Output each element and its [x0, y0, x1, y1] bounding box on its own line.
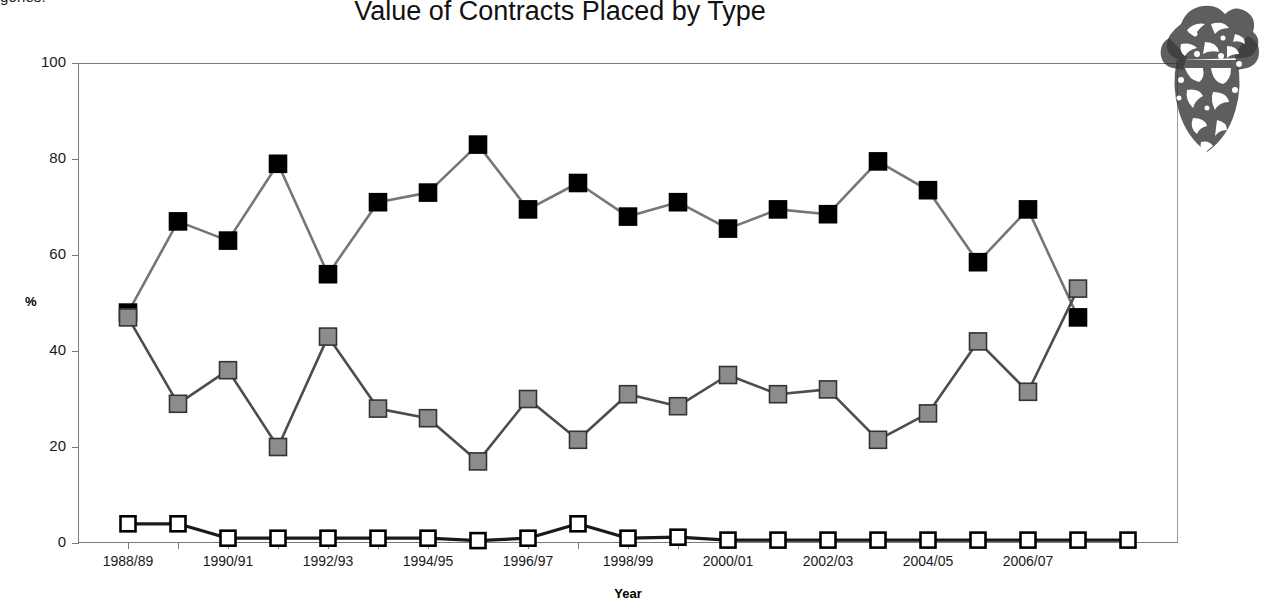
data-point-marker — [770, 201, 787, 218]
data-point-marker — [1121, 533, 1136, 548]
coat-of-arms-icon — [1151, 0, 1263, 166]
data-point-marker — [1020, 383, 1037, 400]
x-tick-label: 1992/93 — [303, 553, 354, 569]
data-point-marker — [970, 254, 987, 271]
data-point-marker — [771, 533, 786, 548]
data-point-marker — [421, 531, 436, 546]
x-axis-title: Year — [0, 586, 1256, 601]
data-point-marker — [370, 400, 387, 417]
data-point-marker — [920, 182, 937, 199]
data-point-marker — [220, 362, 237, 379]
y-tick-label: 0 — [22, 533, 66, 550]
data-point-marker — [671, 530, 686, 545]
data-point-marker — [970, 333, 987, 350]
data-point-marker — [620, 386, 637, 403]
data-point-marker — [320, 328, 337, 345]
data-point-marker — [121, 516, 136, 531]
data-point-marker — [120, 309, 137, 326]
data-point-marker — [420, 410, 437, 427]
series-line — [128, 289, 1078, 462]
data-point-marker — [820, 381, 837, 398]
data-point-marker — [921, 533, 936, 548]
data-point-marker — [420, 184, 437, 201]
data-point-marker — [271, 531, 286, 546]
data-point-marker — [471, 533, 486, 548]
data-point-marker — [520, 201, 537, 218]
open-white-square-series — [121, 516, 1136, 548]
data-point-marker — [321, 531, 336, 546]
data-point-marker — [1070, 309, 1087, 326]
x-tick-label: 2004/05 — [903, 553, 954, 569]
data-point-marker — [221, 531, 236, 546]
data-point-marker — [470, 136, 487, 153]
chart-plot — [78, 63, 1178, 543]
data-point-marker — [670, 398, 687, 415]
data-point-marker — [920, 405, 937, 422]
data-point-marker — [670, 194, 687, 211]
data-point-marker — [720, 367, 737, 384]
data-point-marker — [170, 213, 187, 230]
y-tick-label: 60 — [22, 245, 66, 262]
data-point-marker — [971, 533, 986, 548]
data-point-marker — [871, 533, 886, 548]
data-point-marker — [1070, 280, 1087, 297]
grey-filled-square-series — [120, 280, 1087, 470]
data-point-marker — [270, 439, 287, 456]
y-axis-title: % — [25, 294, 37, 309]
data-point-marker — [1020, 201, 1037, 218]
data-point-marker — [770, 386, 787, 403]
data-point-marker — [821, 533, 836, 548]
data-point-marker — [521, 531, 536, 546]
data-point-marker — [370, 194, 387, 211]
data-point-marker — [621, 531, 636, 546]
y-tick-label: 80 — [22, 149, 66, 166]
data-point-marker — [720, 220, 737, 237]
x-tick-label: 1996/97 — [503, 553, 554, 569]
data-point-marker — [870, 431, 887, 448]
data-point-marker — [520, 391, 537, 408]
data-point-marker — [171, 516, 186, 531]
data-point-marker — [571, 516, 586, 531]
data-point-marker — [371, 531, 386, 546]
x-tick-label: 2002/03 — [803, 553, 854, 569]
x-tick-mark — [178, 543, 179, 549]
data-point-marker — [870, 153, 887, 170]
data-point-marker — [220, 232, 237, 249]
data-point-marker — [320, 266, 337, 283]
x-tick-mark — [128, 543, 129, 549]
x-tick-label: 1990/91 — [203, 553, 254, 569]
data-point-marker — [721, 533, 736, 548]
data-point-marker — [620, 208, 637, 225]
y-tick-label: 40 — [22, 341, 66, 358]
data-point-marker — [570, 431, 587, 448]
data-point-marker — [570, 175, 587, 192]
y-tick-mark — [72, 543, 79, 544]
x-tick-label: 2000/01 — [703, 553, 754, 569]
y-tick-label: 20 — [22, 437, 66, 454]
chart-title: Value of Contracts Placed by Type — [0, 0, 1120, 27]
x-tick-label: 1998/99 — [603, 553, 654, 569]
x-tick-label: 1994/95 — [403, 553, 454, 569]
data-point-marker — [170, 395, 187, 412]
data-point-marker — [270, 155, 287, 172]
data-point-marker — [820, 206, 837, 223]
data-point-marker — [1071, 533, 1086, 548]
x-tick-label: 2006/07 — [1003, 553, 1054, 569]
x-tick-label: 1988/89 — [103, 553, 154, 569]
x-tick-mark — [578, 543, 579, 549]
black-filled-square-series — [120, 136, 1087, 326]
y-tick-label: 100 — [22, 53, 66, 70]
data-point-marker — [470, 453, 487, 470]
data-point-marker — [1021, 533, 1036, 548]
